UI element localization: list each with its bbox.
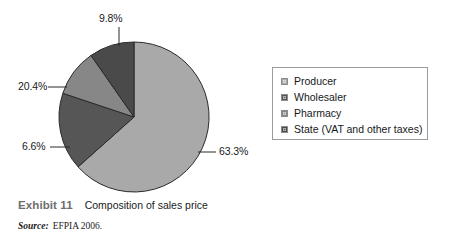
source-note: Source: EFPIA 2006. [18,221,102,231]
exhibit-figure: 9.8% 20.4% 6.6% 63.3% Producer Wholesale… [0,0,451,242]
exhibit-title: Composition of sales price [85,199,208,211]
slice-value-wholesaler: 6.6% [22,140,46,152]
exhibit-caption: Exhibit 11 Composition of sales price [18,199,208,211]
chart-legend: Producer Wholesaler Pharmacy State (VAT … [272,67,428,140]
legend-item-wholesaler[interactable]: Wholesaler [281,90,427,105]
exhibit-number: Exhibit 11 [18,199,73,211]
source-label: Source: [18,221,49,231]
legend-swatch-state [281,126,288,133]
legend-swatch-pharmacy [281,110,288,117]
legend-label-producer: Producer [294,76,337,87]
legend-swatch-wholesaler [281,94,288,101]
legend-item-pharmacy[interactable]: Pharmacy [281,106,427,121]
pie-chart: 9.8% 20.4% 6.6% 63.3% [0,0,270,200]
slice-value-state: 9.8% [99,12,123,24]
legend-item-state[interactable]: State (VAT and other taxes) [281,122,427,137]
slice-value-producer: 63.3% [219,145,248,157]
legend-label-wholesaler: Wholesaler [294,92,347,103]
legend-label-pharmacy: Pharmacy [294,108,341,119]
legend-label-state: State (VAT and other taxes) [294,124,422,135]
legend-swatch-producer [281,78,288,85]
pie-chart-svg [0,0,270,200]
legend-item-producer[interactable]: Producer [281,74,427,89]
slice-value-pharmacy: 20.4% [18,80,47,92]
source-value: EFPIA 2006. [53,221,103,231]
